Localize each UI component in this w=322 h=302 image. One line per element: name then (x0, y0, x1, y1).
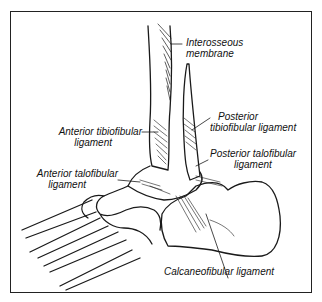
label-line: Interosseous (186, 37, 243, 48)
label-posterior-tibiofibular-ligament: Posterior tibiofibular ligament (210, 111, 296, 133)
label-calcaneofibular-ligament: Calcaneofibular ligament (164, 266, 274, 277)
label-line: ligament (18, 179, 118, 190)
label-line: Anterior talofibular (18, 168, 118, 179)
label-line: membrane (186, 48, 243, 59)
calcaneofibular-fibers (176, 196, 206, 232)
label-interosseous-membrane: Interosseous membrane (186, 37, 243, 59)
fibula-bone (183, 64, 200, 180)
label-anterior-tibiofibular-ligament: Anterior tibiofibular ligament (46, 126, 142, 148)
interosseous-membrane (158, 24, 171, 100)
label-line: Posterior talofibular (210, 148, 296, 159)
midfoot-bones (82, 186, 161, 244)
talofibular-fibers (140, 176, 222, 194)
label-line: ligament (46, 137, 142, 148)
label-line: ligament (210, 159, 296, 170)
label-line: Anterior tibiofibular (46, 126, 142, 137)
label-line: Posterior (210, 111, 296, 122)
label-anterior-talofibular-ligament: Anterior talofibular ligament (18, 168, 118, 190)
label-posterior-talofibular-ligament: Posterior talofibular ligament (210, 148, 296, 170)
talus-bone (128, 166, 202, 200)
metatarsal-bones (22, 200, 140, 290)
label-line: Calcaneofibular ligament (164, 266, 274, 277)
label-line: tibiofibular ligament (210, 122, 296, 133)
anterior-tibiofibular-fibers (154, 120, 167, 164)
calcaneus-bone (161, 181, 280, 256)
